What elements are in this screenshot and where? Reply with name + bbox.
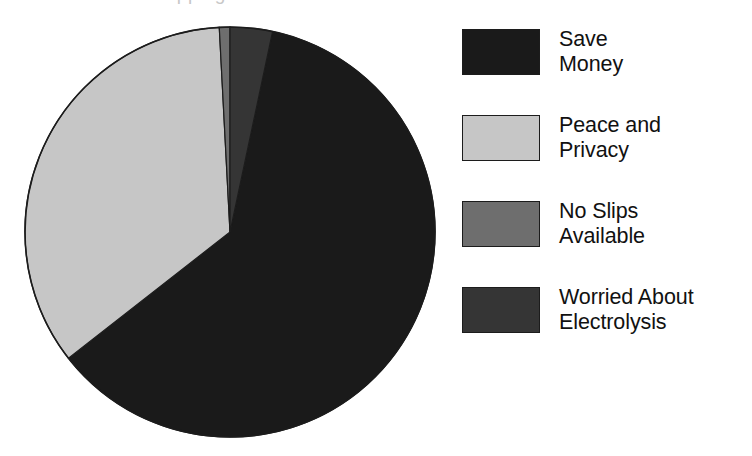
legend-swatch-peace-and-privacy [462, 115, 540, 161]
legend-label-worried-about-electrolysis: Worried About Electrolysis [559, 285, 694, 335]
pie-chart-figure: stopping Save Money Peace and Privacy No… [0, 0, 752, 456]
legend-item-peace-and-privacy[interactable]: Peace and Privacy [462, 113, 747, 199]
pie-slice-group [25, 27, 435, 437]
legend-swatch-worried-about-electrolysis [462, 287, 540, 333]
legend-label-peace-and-privacy: Peace and Privacy [559, 113, 661, 163]
legend-item-save-money[interactable]: Save Money [462, 27, 747, 113]
pie-chart-svg [0, 0, 470, 456]
legend-swatch-no-slips-available [462, 201, 540, 247]
legend-item-no-slips-available[interactable]: No Slips Available [462, 199, 747, 285]
legend-item-worried-about-electrolysis[interactable]: Worried About Electrolysis [462, 285, 747, 371]
legend-label-no-slips-available: No Slips Available [559, 199, 645, 249]
legend-label-save-money: Save Money [559, 27, 623, 77]
legend-swatch-save-money [462, 29, 540, 75]
pie-chart-area [0, 0, 470, 456]
chart-legend: Save Money Peace and Privacy No Slips Av… [462, 27, 747, 371]
